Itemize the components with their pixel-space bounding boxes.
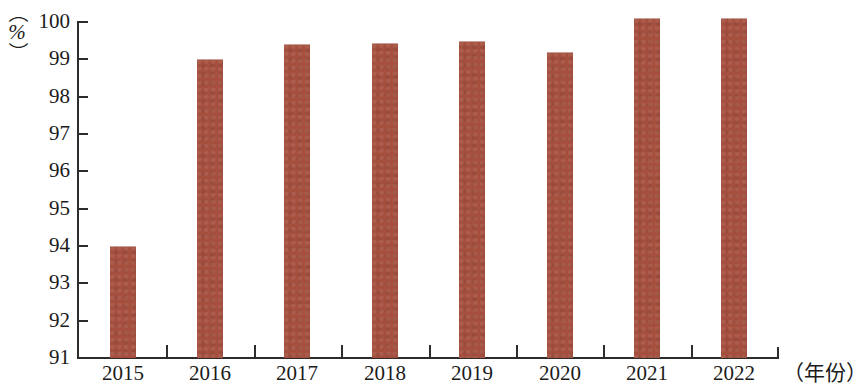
x-axis-label-2021: 2021: [607, 362, 687, 384]
y-axis-tick-label: 96: [26, 160, 70, 181]
y-axis-tick: [79, 170, 88, 172]
y-axis-tick: [79, 96, 88, 98]
y-axis-tick: [79, 208, 88, 210]
y-axis-tick: [79, 133, 88, 135]
x-axis-line: [77, 357, 779, 359]
y-axis-tick: [79, 320, 88, 322]
y-axis-tick-label: 98: [26, 86, 70, 107]
y-axis-tick: [79, 21, 88, 23]
y-axis-unit-close-paren: ）: [11, 37, 24, 67]
y-axis-tick-label: 94: [26, 235, 70, 256]
y-axis-tick: [79, 357, 88, 359]
x-axis-right-cap: [777, 347, 779, 359]
x-axis-label-2015: 2015: [83, 362, 163, 384]
x-axis-tick: [429, 345, 431, 357]
y-axis-tick-label: 91: [26, 347, 70, 368]
y-axis-tick: [79, 58, 88, 60]
x-axis-label-2018: 2018: [345, 362, 425, 384]
x-axis-label-2022: 2022: [694, 362, 774, 384]
bar-2021: [634, 18, 660, 358]
y-axis-tick-label: 97: [26, 123, 70, 144]
bar-2018: [372, 43, 398, 358]
x-axis-label-2017: 2017: [257, 362, 337, 384]
x-axis-tick: [341, 345, 343, 357]
y-axis-tick-label: 100: [26, 11, 70, 32]
x-axis-unit-label: （年份）: [783, 362, 858, 384]
bar-2020: [547, 52, 573, 358]
y-axis-tick-label: 92: [26, 310, 70, 331]
x-axis-label-2016: 2016: [170, 362, 250, 384]
y-axis-tick: [79, 245, 88, 247]
x-axis-tick: [691, 345, 693, 357]
y-axis-line: [77, 21, 79, 359]
bar-2016: [197, 59, 223, 358]
bar-2019: [459, 41, 485, 358]
y-axis-tick-label: 99: [26, 48, 70, 69]
x-axis-tick: [254, 345, 256, 357]
x-axis-tick: [516, 345, 518, 357]
y-axis-unit-open-paren: （: [11, 0, 24, 28]
x-axis-label-2020: 2020: [520, 362, 600, 384]
x-axis-tick: [166, 345, 168, 357]
bar-2015: [110, 246, 136, 358]
x-axis-label-2019: 2019: [432, 362, 512, 384]
y-axis-tick: [79, 282, 88, 284]
x-axis-tick: [603, 345, 605, 357]
y-axis-tick-label: 95: [26, 198, 70, 219]
bar-2017: [284, 44, 310, 358]
y-axis-tick-label: 93: [26, 272, 70, 293]
bar-2022: [721, 18, 747, 358]
